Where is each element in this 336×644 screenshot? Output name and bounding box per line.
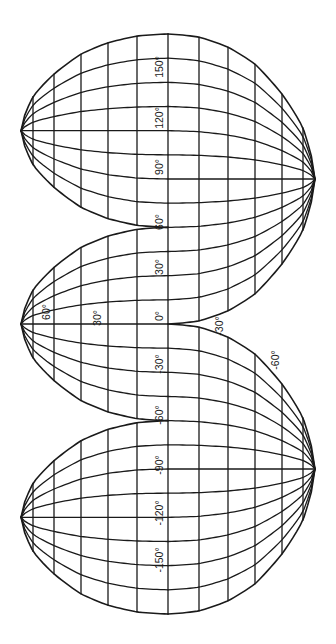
lobe-boundary	[168, 179, 315, 324]
longitude-labels: 150°120°90°60°30°0°-30°-60°-90°-120°-150…	[153, 56, 165, 572]
meridian-line	[21, 131, 168, 155]
longitude-label: -150°	[153, 547, 165, 572]
latitude-label: 60°	[40, 304, 52, 320]
longitude-label: -120°	[153, 500, 165, 525]
graticule	[21, 34, 315, 614]
latitude-label: -60°	[269, 350, 281, 369]
longitude-label: -60°	[153, 405, 165, 424]
meridian-line	[168, 469, 315, 493]
meridian-line	[168, 348, 315, 469]
longitude-label: 30°	[153, 259, 165, 275]
meridian-line	[168, 445, 315, 469]
meridian-line	[168, 58, 315, 179]
meridian-line	[168, 469, 315, 590]
longitude-label: 90°	[153, 159, 165, 175]
meridian-line	[168, 155, 315, 179]
meridian-line	[21, 517, 168, 541]
latitude-label: 30°	[91, 310, 103, 326]
lobe-boundary	[168, 34, 315, 179]
meridian-line	[168, 179, 315, 203]
longitude-label: 0°	[153, 311, 165, 321]
longitude-label: 150°	[153, 56, 165, 78]
longitude-label: 120°	[153, 107, 165, 129]
map-projection-graticule: 150°120°90°60°30°0°-30°-60°-90°-120°-150…	[0, 0, 336, 644]
latitude-label: -30°	[213, 316, 225, 335]
meridian-line	[168, 179, 315, 300]
longitude-label: -90°	[153, 455, 165, 474]
longitude-label: 60°	[153, 214, 165, 230]
meridian-line	[21, 107, 168, 131]
meridian-line	[21, 493, 168, 517]
lobe-boundary	[168, 469, 315, 614]
lobe-boundary	[168, 324, 315, 469]
longitude-label: -30°	[153, 354, 165, 373]
meridian-line	[21, 324, 168, 348]
